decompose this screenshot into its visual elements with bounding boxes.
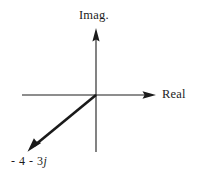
imag-axis-label: Imag. [79, 9, 109, 22]
real-axis-label: Real [162, 88, 186, 101]
complex-number-label: - 4 - 3j [11, 155, 47, 167]
argand-diagram: Imag. Real - 4 - 3j [0, 0, 197, 178]
imaginary-unit-symbol: j [44, 154, 47, 168]
complex-number-value: - 4 - 3 [11, 154, 44, 168]
complex-vector-line [35, 95, 97, 146]
